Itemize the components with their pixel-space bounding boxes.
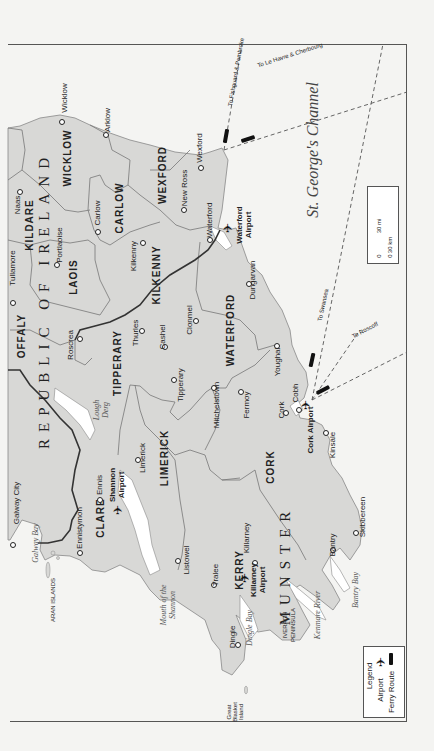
county-label: CORK bbox=[266, 450, 276, 483]
city-marker-icon bbox=[77, 336, 83, 342]
aran-island bbox=[46, 562, 50, 578]
city-label: Skibbereen bbox=[359, 497, 367, 537]
legend-ferry-label: Ferry Route bbox=[388, 671, 396, 713]
county-label: LAOIS bbox=[69, 259, 79, 295]
city-label: Ennis bbox=[96, 475, 104, 495]
water-label: Galway Bay bbox=[32, 523, 40, 562]
city-marker-icon bbox=[59, 119, 65, 125]
island-label: Island bbox=[238, 704, 244, 720]
county-label: CARLOW bbox=[115, 183, 125, 234]
county-label: KILKENNY bbox=[152, 245, 162, 304]
county-label: OFFALY bbox=[17, 314, 27, 359]
scale-km-label: 30 km bbox=[387, 237, 393, 253]
airport-label: Waterford bbox=[236, 206, 244, 243]
county-label: WEXFORD bbox=[158, 146, 168, 204]
city-label: Thurles bbox=[132, 320, 140, 347]
city-label: Arklow bbox=[104, 108, 112, 132]
city-label: Clonmel bbox=[186, 305, 194, 334]
scale-box bbox=[367, 186, 399, 264]
city-marker-icon bbox=[207, 237, 213, 243]
city-label: Tipperary bbox=[177, 368, 185, 402]
airport-label: Airport bbox=[118, 472, 126, 499]
airplane-icon: ✈ bbox=[222, 223, 234, 233]
city-label: Fermoy bbox=[243, 391, 251, 418]
water-label: Bantry Bay bbox=[352, 572, 360, 608]
county-label: KILDARE bbox=[25, 199, 35, 250]
airport-label: Airport bbox=[259, 567, 267, 594]
water-label: Kenmare River bbox=[314, 591, 322, 639]
legend-title: Legend bbox=[366, 663, 374, 690]
city-marker-icon bbox=[97, 497, 103, 503]
city-marker-icon bbox=[175, 558, 181, 564]
water-label: Lough bbox=[93, 400, 101, 420]
city-label: Waterford bbox=[206, 203, 214, 238]
scale-miles-label: 30 mi bbox=[376, 219, 382, 234]
scale-zero-km: 0 bbox=[387, 254, 393, 257]
aran-island bbox=[57, 557, 60, 560]
city-marker-icon bbox=[54, 262, 60, 268]
city-label: Youghal bbox=[274, 348, 282, 377]
airplane-icon: ✈ bbox=[300, 400, 312, 410]
map-frame-bottom bbox=[10, 721, 407, 722]
airplane-icon: ✈ bbox=[375, 657, 387, 667]
city-marker-icon bbox=[198, 165, 204, 171]
city-label: Kinsale bbox=[329, 432, 337, 458]
city-label: Dingle bbox=[229, 626, 237, 649]
city-marker-icon bbox=[95, 229, 101, 235]
city-marker-icon bbox=[103, 132, 109, 138]
city-marker-icon bbox=[140, 240, 146, 246]
county-label: TIPPERARY bbox=[113, 330, 123, 396]
city-label: Killarney bbox=[243, 523, 251, 554]
island-label: PENINSULA bbox=[290, 608, 296, 642]
island-label: ARAN ISLANDS bbox=[50, 578, 56, 622]
sea-label: St. George's Channel bbox=[305, 82, 321, 218]
blasket-island bbox=[245, 686, 248, 694]
city-label: Ennistymon bbox=[76, 507, 84, 549]
city-label: Dungarvan bbox=[249, 260, 257, 299]
airplane-icon: ✈ bbox=[112, 505, 124, 515]
city-marker-icon bbox=[181, 207, 187, 213]
scale-zero-miles: 0 bbox=[376, 254, 382, 257]
county-label: WATERFORD bbox=[226, 294, 236, 367]
city-label: Mitchelstown bbox=[213, 382, 221, 428]
city-marker-icon bbox=[10, 300, 16, 306]
county-label: KERRY bbox=[235, 550, 245, 590]
island-label: IVERAGH bbox=[282, 611, 288, 638]
city-label: Naas bbox=[14, 196, 22, 215]
city-label: Tralee bbox=[212, 564, 220, 586]
airplane-icon: ✈ bbox=[239, 573, 251, 583]
city-label: Cork bbox=[278, 402, 286, 419]
city-label: Wexford bbox=[196, 133, 204, 163]
aran-island bbox=[51, 551, 55, 555]
airport-label: Shannon bbox=[109, 468, 117, 502]
region-label: REPUBLIC OF IRELAND bbox=[37, 151, 52, 449]
water-label: Shannon bbox=[169, 591, 177, 619]
airport-label: Cork Airport bbox=[307, 407, 315, 454]
county-label: LIMERICK bbox=[160, 430, 170, 486]
city-marker-icon bbox=[17, 189, 23, 195]
city-label: New Ross bbox=[181, 170, 189, 206]
city-label: Limerick bbox=[139, 443, 147, 473]
city-label: Wicklow bbox=[61, 83, 69, 112]
map-frame-top bbox=[8, 44, 407, 45]
city-label: Listowel bbox=[183, 546, 191, 575]
city-label: Kilkenny bbox=[130, 241, 138, 271]
county-label: WICKLOW bbox=[63, 130, 73, 187]
city-label: Roscrea bbox=[67, 330, 75, 360]
water-label: Mouth of the bbox=[160, 585, 168, 626]
city-marker-icon bbox=[77, 550, 83, 556]
legend-airport-label: Airport bbox=[377, 678, 385, 702]
city-label: Tullamore bbox=[9, 250, 17, 285]
city-label: Carlow bbox=[94, 201, 102, 226]
ireland-map: REPUBLIC OF IRELANDMUNSTERWICKLOWKILDARE… bbox=[0, 0, 434, 751]
water-label: Dingle Bay bbox=[246, 610, 254, 646]
city-label: Cashel bbox=[159, 325, 167, 350]
ferry-icon bbox=[389, 653, 393, 665]
city-label: Galway City bbox=[13, 482, 21, 525]
city-marker-icon bbox=[10, 542, 16, 548]
water-label: Derg bbox=[102, 402, 110, 418]
city-label: Bantry bbox=[329, 533, 337, 556]
city-label: Portlaoise bbox=[56, 227, 64, 263]
map-frame-right bbox=[406, 44, 407, 722]
airport-label: Airport bbox=[245, 212, 253, 239]
